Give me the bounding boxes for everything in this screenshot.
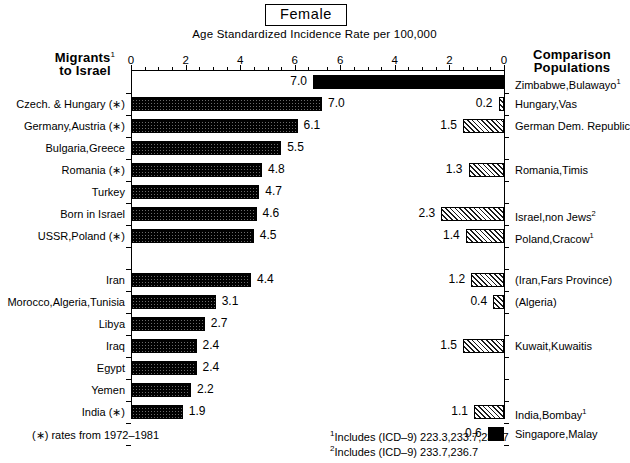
left-axis-tick xyxy=(227,67,228,70)
left-bar-value: 4.8 xyxy=(268,162,285,176)
right-axis-tick xyxy=(327,67,328,70)
right-axis-line xyxy=(322,70,504,71)
right-bar xyxy=(466,229,504,243)
left-axis-tick xyxy=(308,67,309,70)
right-bar xyxy=(463,339,504,353)
right-bar-value: 7.0 xyxy=(279,74,307,88)
right-category-label: Hungary,Vas xyxy=(515,97,577,111)
chart-row: 3.1Morocco,Algeria,Tunisia0.4(Algeria) xyxy=(0,292,629,314)
left-spine-tick xyxy=(126,445,131,446)
left-bar-value: 1.9 xyxy=(189,404,206,418)
right-category-superscript: 1 xyxy=(617,77,621,86)
left-bar-value: 6.1 xyxy=(304,118,321,132)
left-category-label: Iran xyxy=(106,273,125,287)
left-bar-value: 4.4 xyxy=(257,272,274,286)
left-bar xyxy=(131,229,254,243)
right-axis-tick-label: 6 xyxy=(330,54,350,66)
right-bar xyxy=(469,163,504,177)
right-category-superscript: 2 xyxy=(591,209,595,218)
left-category-label: Yemen xyxy=(91,383,125,397)
chart-row: 1.9India (∗)1.1India,Bombay1 xyxy=(0,402,629,424)
left-category-label: Morocco,Algeria,Tunisia xyxy=(7,295,125,309)
left-bar xyxy=(131,317,205,331)
right-bar-value: 1.5 xyxy=(429,118,457,132)
right-axis-tick-label: 4 xyxy=(385,54,405,66)
left-category-label: Born in Israel xyxy=(60,207,125,221)
chart-row: 7.0Zimbabwe,Bulawayo1 xyxy=(0,72,629,94)
left-axis-tick-label: 0 xyxy=(121,54,141,66)
left-axis-tick xyxy=(145,67,146,70)
chart-subtitle: Age Standardized Incidence Rate per 100,… xyxy=(0,28,629,40)
chart-row: 2.2Yemen xyxy=(0,380,629,402)
right-axis-tick xyxy=(368,67,369,70)
right-bar xyxy=(441,207,504,221)
right-bar xyxy=(471,273,504,287)
right-axis-tick-label: 2 xyxy=(439,54,459,66)
right-bar xyxy=(474,405,504,419)
right-spine-tick xyxy=(504,445,509,446)
left-category-label: Czech. & Hungary (∗) xyxy=(16,97,125,111)
left-bar xyxy=(131,339,197,353)
right-bar-value: 0.4 xyxy=(459,294,487,308)
right-category-label: Singapore,Malay xyxy=(515,427,598,441)
right-bar-value: 1.1 xyxy=(440,404,468,418)
chart-row: 2.4Egypt xyxy=(0,358,629,380)
right-bar xyxy=(463,119,504,133)
right-axis-tick xyxy=(408,67,409,70)
left-bar xyxy=(131,97,322,111)
left-bar-value: 4.7 xyxy=(265,184,282,198)
right-axis-tick xyxy=(477,67,478,70)
right-category-superscript: 1 xyxy=(582,407,586,416)
right-bar-value: 1.5 xyxy=(429,338,457,352)
right-axis-tick xyxy=(354,67,355,70)
left-category-label: Bulgaria,Greece xyxy=(46,141,126,155)
right-axis-tick xyxy=(381,67,382,70)
right-axis-tick-label: 0 xyxy=(494,54,514,66)
left-axis-tick-label: 6 xyxy=(285,54,305,66)
left-axis-tick xyxy=(172,67,173,70)
right-category-superscript: 1 xyxy=(590,231,594,240)
right-category-label: Poland,Cracow1 xyxy=(515,229,594,246)
chart-row: 4.8Romania (∗)1.3Romania,Timis xyxy=(0,160,629,182)
right-bar-value: 1.4 xyxy=(432,228,460,242)
right-category-label: Kuwait,Kuwaitis xyxy=(515,339,592,353)
left-bar-value: 3.1 xyxy=(222,294,239,308)
left-axis-tick xyxy=(281,67,282,70)
right-panel-heading: Comparison Populations xyxy=(516,48,628,74)
left-category-label: USSR,Poland (∗) xyxy=(38,229,125,243)
footnote-right-1-text: Includes (ICD–9) 223.3,233.7,236.7 xyxy=(334,431,508,443)
right-category-label: German Dem. Republic xyxy=(515,119,630,133)
footnote-left: (∗) rates from 1972–1981 xyxy=(32,428,159,442)
chart-row: 6.1Germany,Austria (∗)1.5German Dem. Rep… xyxy=(0,116,629,138)
left-bar xyxy=(131,207,257,221)
left-bar-value: 2.7 xyxy=(211,316,228,330)
right-category-label: (Iran,Fars Province) xyxy=(515,273,612,287)
chart-row: 7.0Czech. & Hungary (∗)0.2Hungary,Vas xyxy=(0,94,629,116)
right-bar xyxy=(499,97,504,111)
left-axis-tick xyxy=(268,67,269,70)
left-axis-line xyxy=(131,70,333,71)
right-bar-value: 1.2 xyxy=(437,272,465,286)
left-bar xyxy=(131,119,298,133)
left-bar-value: 7.0 xyxy=(328,96,345,110)
right-axis-tick xyxy=(422,67,423,70)
left-bar xyxy=(131,405,183,419)
right-bar-value: 2.3 xyxy=(407,206,435,220)
right-category-label: Zimbabwe,Bulawayo1 xyxy=(515,75,621,92)
chart-row: 4.5USSR,Poland (∗)1.4Poland,Cracow1 xyxy=(0,226,629,248)
left-bar-value: 4.6 xyxy=(263,206,280,220)
chart-row: 5.5Bulgaria,Greece xyxy=(0,138,629,160)
right-axis-tick xyxy=(463,67,464,70)
footnote-right-2: 2Includes (ICD–9) 233.7,236.7 xyxy=(330,442,478,459)
chart-row: 4.6Born in Israel2.3Israel,non Jews2 xyxy=(0,204,629,226)
left-bar-value: 2.4 xyxy=(203,360,220,374)
left-panel-heading-superscript: 1 xyxy=(111,50,116,59)
right-axis-tick xyxy=(490,67,491,70)
left-bar xyxy=(131,295,216,309)
left-bar xyxy=(131,361,197,375)
left-bar xyxy=(131,273,251,287)
chart-row xyxy=(0,248,629,270)
left-bar xyxy=(131,383,191,397)
left-bar-value: 2.4 xyxy=(203,338,220,352)
chart-row: 4.4Iran1.2(Iran,Fars Province) xyxy=(0,270,629,292)
